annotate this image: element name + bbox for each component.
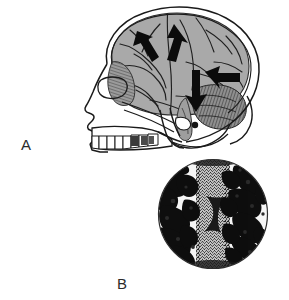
panel-label-a: A bbox=[21, 137, 32, 152]
figure-root: A B bbox=[0, 0, 289, 300]
panel-label-b: B bbox=[117, 276, 128, 291]
panel-b-micrograph bbox=[0, 0, 289, 300]
micrograph-field bbox=[153, 156, 270, 270]
